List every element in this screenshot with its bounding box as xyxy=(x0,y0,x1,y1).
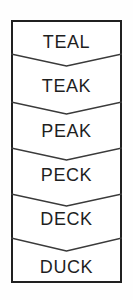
ladder-word-5: DECK xyxy=(11,209,122,229)
word-label-layer: TEAL TEAK PEAK PECK DECK DUCK xyxy=(11,20,122,283)
ladder-word-6: DUCK xyxy=(11,257,122,277)
ladder-word-1: TEAL xyxy=(11,32,122,52)
ladder-word-3: PEAK xyxy=(11,121,122,141)
ladder-word-4: PECK xyxy=(11,165,122,185)
word-ladder-diagram: TEAL TEAK PEAK PECK DECK DUCK xyxy=(11,20,122,283)
diagram-canvas: TEAL TEAK PEAK PECK DECK DUCK xyxy=(0,0,133,300)
ladder-word-2: TEAK xyxy=(11,76,122,96)
